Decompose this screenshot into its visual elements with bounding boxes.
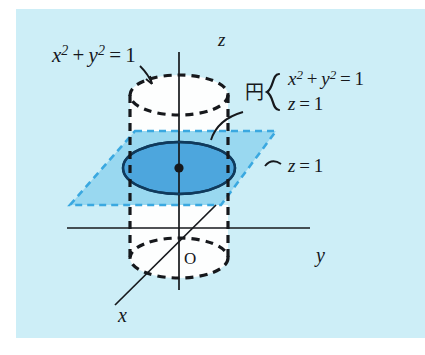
axis-label-x: x <box>117 304 127 326</box>
figure-page: x2 + y2 = 1 z y x O z = 1 円 x2 + y2 = 1 … <box>0 0 425 355</box>
label-cylinder-equation: x2 + y2 = 1 <box>51 43 136 67</box>
geometry-diagram-svg: x2 + y2 = 1 z y x O z = 1 円 x2 + y2 = 1 … <box>0 0 425 355</box>
callout-equation-line-1: x2 + y2 = 1 <box>287 67 364 89</box>
label-plane-z-equals-1: z = 1 <box>287 155 323 176</box>
label-kanji-circle: 円 <box>245 81 264 103</box>
cyl-eq-x-exp: 2 <box>61 43 68 58</box>
leader-plane-label <box>265 161 281 166</box>
callout-brace <box>267 74 279 110</box>
circle-center-dot <box>174 163 183 172</box>
origin-label: O <box>184 249 196 268</box>
axis-label-y: y <box>314 244 325 267</box>
callout-equation-line-2: z = 1 <box>287 93 323 114</box>
axis-label-z: z <box>217 29 226 50</box>
